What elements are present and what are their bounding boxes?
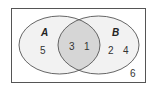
region-b-only-value-2: 4: [123, 45, 129, 56]
region-intersection-value-2: 1: [84, 41, 90, 52]
region-b-only-value-1: 2: [108, 45, 114, 56]
region-outside-value: 6: [130, 68, 136, 79]
region-intersection-value-1: 3: [69, 41, 75, 52]
venn-diagram: A B 5 3 1 2 4 6: [0, 0, 148, 87]
set-b-label: B: [112, 27, 119, 38]
set-a-label: A: [40, 27, 48, 38]
region-a-only-value: 5: [40, 45, 46, 56]
